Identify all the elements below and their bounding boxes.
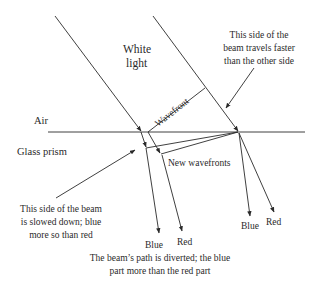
white-light-label-1: White bbox=[123, 43, 151, 55]
caption-line-2: part more than the red part bbox=[109, 266, 210, 276]
air-label: Air bbox=[34, 115, 49, 126]
fast-side-note-1: This side of the bbox=[230, 30, 289, 40]
refraction-diagram: White light Air Glass prism Wavefront Ne… bbox=[0, 0, 321, 283]
new-wavefronts-label: New wavefronts bbox=[168, 158, 231, 168]
fast-side-pointer bbox=[226, 68, 254, 108]
white-light-label-2: light bbox=[126, 57, 148, 70]
slow-side-note-3: more so than red bbox=[29, 230, 93, 240]
caption-line-1: The beam’s path is diverted; the blue bbox=[90, 253, 230, 263]
incident-beam-left-edge bbox=[55, 16, 141, 131]
refracted-left-short-red bbox=[148, 132, 160, 153]
slow-side-note-2: is slowed down; blue bbox=[21, 217, 101, 227]
slow-side-pointer bbox=[56, 150, 135, 198]
left-blue-label: Blue bbox=[145, 240, 163, 250]
left-blue-ray bbox=[146, 148, 159, 233]
glass-prism-label: Glass prism bbox=[17, 146, 67, 157]
right-red-label: Red bbox=[266, 217, 282, 227]
right-blue-label: Blue bbox=[241, 221, 259, 231]
left-red-label: Red bbox=[177, 237, 193, 247]
fast-side-note-2: beam travels faster bbox=[223, 43, 296, 53]
slow-side-note-1: This side of the beam bbox=[20, 204, 102, 214]
wavefront-label: Wavefront bbox=[153, 96, 191, 129]
refracted-left-short-blue bbox=[141, 132, 146, 147]
fast-side-note-3: than the other side bbox=[224, 56, 294, 66]
